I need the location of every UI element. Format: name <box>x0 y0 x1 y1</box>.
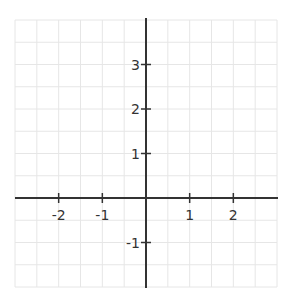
x-tick-label: 2 <box>229 207 238 223</box>
y-tick-label: 2 <box>131 101 140 117</box>
x-tick-label: -1 <box>95 207 109 223</box>
y-tick-label: 3 <box>131 57 140 73</box>
y-tick-label: -1 <box>126 235 140 251</box>
x-tick-label: -2 <box>52 207 66 223</box>
coordinate-plane: -2-112321-1 <box>0 0 290 305</box>
y-tick-label: 1 <box>131 146 140 162</box>
x-tick-label: 1 <box>185 207 194 223</box>
